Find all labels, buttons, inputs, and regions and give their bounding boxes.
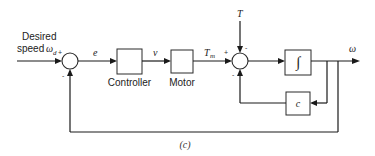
- input-label-speed: speed: [17, 43, 44, 54]
- controller-block: [117, 49, 142, 74]
- torque-arrowhead: [225, 58, 232, 64]
- outer-feedback-arrowhead: [67, 69, 73, 76]
- figure-caption: (c): [179, 139, 191, 151]
- output-label: ω: [349, 43, 356, 54]
- sum1-minus-sign: -: [62, 72, 65, 79]
- integrator-input-arrowhead: [278, 58, 285, 64]
- motor-block: [171, 50, 193, 73]
- damping-label: c: [296, 98, 301, 109]
- input-subscript-d: d: [53, 49, 57, 57]
- motor-label: Motor: [169, 77, 195, 88]
- disturbance-arrowhead: [237, 46, 243, 53]
- sum2-disturbance-sign: -: [245, 44, 248, 51]
- block-diagram: Desired speed ω d + - e Controller v Mot…: [0, 0, 375, 156]
- error-arrowhead: [110, 58, 117, 64]
- controller-label: Controller: [108, 77, 152, 88]
- voltage-arrowhead: [164, 58, 171, 64]
- c-input-arrowhead: [310, 100, 317, 106]
- voltage-signal-label: v: [153, 47, 158, 58]
- sum2-plus-sign: +: [224, 49, 228, 56]
- summing-junction-1: [62, 53, 78, 69]
- inner-feedback-arrowhead: [237, 69, 243, 76]
- disturbance-label: T: [237, 8, 244, 19]
- sum1-plus-sign: +: [58, 49, 62, 56]
- sum2-feedback-sign: -: [232, 71, 235, 78]
- input-label-desired: Desired: [22, 31, 56, 42]
- torque-signal-subscript: m: [210, 52, 215, 60]
- input-symbol-omega: ω: [46, 43, 53, 54]
- summing-junction-2: [232, 53, 248, 69]
- input-arrowhead: [55, 58, 62, 64]
- output-arrowhead: [352, 58, 360, 64]
- error-signal-label: e: [93, 47, 98, 58]
